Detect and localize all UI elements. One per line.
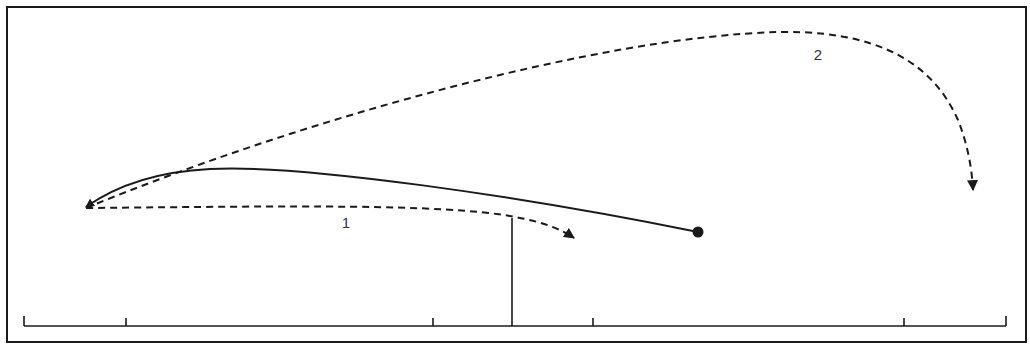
arrow-1-label: 1 [342, 214, 350, 231]
diagram-canvas: 1 2 [0, 0, 1030, 352]
arrow-2-label: 2 [814, 46, 822, 63]
start-dot [693, 227, 704, 238]
